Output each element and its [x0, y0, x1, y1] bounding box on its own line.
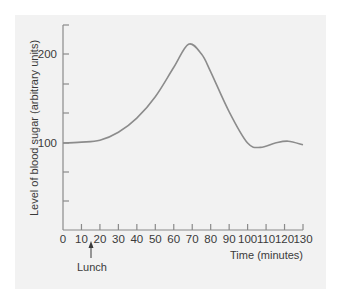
x-tick-label: 90: [223, 233, 236, 245]
y-tick-label-200: 200: [38, 48, 57, 60]
x-tick-label: 130: [293, 233, 312, 245]
ticks: 0102030405060708090100110120130: [60, 25, 313, 245]
x-tick-label: 60: [167, 233, 180, 245]
x-tick-label: 80: [204, 233, 217, 245]
lunch-annotation: Lunch: [77, 241, 107, 273]
x-tick-label: 30: [112, 233, 125, 245]
lunch-label: Lunch: [77, 261, 107, 273]
blood-sugar-curve: [63, 44, 303, 148]
x-tick-label: 70: [186, 233, 199, 245]
x-tick-label: 10: [75, 233, 88, 245]
x-tick-label: 120: [275, 233, 294, 245]
x-tick-label: 40: [130, 233, 143, 245]
y-tick-label-100: 100: [38, 137, 57, 149]
x-tick-label: 50: [149, 233, 162, 245]
y-axis-title: Level of blood sugar (arbitrary units): [28, 40, 40, 216]
x-tick-label: 110: [257, 233, 275, 245]
x-tick-label: 100: [238, 233, 257, 245]
x-tick-label: 20: [94, 233, 107, 245]
line-chart: 0102030405060708090100110120130 200 100 …: [0, 0, 337, 292]
x-axis-title: Time (minutes): [230, 249, 303, 261]
axes: [63, 25, 303, 230]
x-tick-label: 0: [60, 233, 66, 245]
